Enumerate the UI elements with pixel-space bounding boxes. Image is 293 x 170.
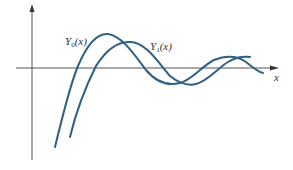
label-y1: Y1(x) [150,41,172,54]
x-axis-arrow-icon [270,66,279,71]
label-y0: Y0(x) [65,36,87,49]
curve-y1 [70,42,250,137]
y-axis-arrow-icon [30,4,35,12]
bessel-chart [0,0,293,170]
x-axis-label: x [274,72,279,83]
